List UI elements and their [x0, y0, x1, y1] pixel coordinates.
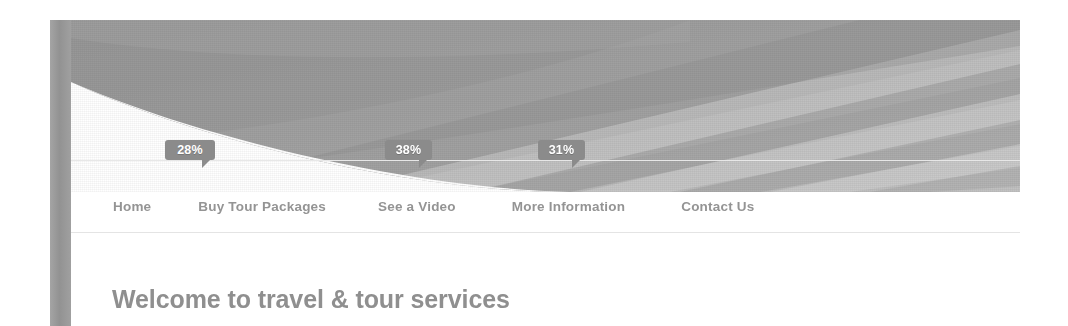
main-navigation: Home Buy Tour Packages See a Video More …: [113, 193, 754, 219]
nav-item-see-a-video[interactable]: See a Video: [378, 199, 456, 214]
nav-divider: [71, 232, 1020, 233]
nav-item-more-information[interactable]: More Information: [512, 199, 625, 214]
nav-item-home[interactable]: Home: [113, 199, 151, 214]
nav-item-contact-us[interactable]: Contact Us: [681, 199, 754, 214]
nav-item-buy-tour-packages[interactable]: Buy Tour Packages: [198, 199, 326, 214]
page-title: Welcome to travel & tour services: [112, 285, 510, 314]
stat-badge[interactable]: 31%: [538, 140, 585, 160]
badge-baseline-rule: [71, 160, 1020, 161]
travel-banner-graphic: [50, 20, 1020, 192]
page-root: 28% 38% 31% Home Buy Tour Packages See a…: [0, 0, 1068, 326]
left-accent-strip: [50, 20, 71, 326]
stat-badge[interactable]: 38%: [385, 140, 432, 160]
stat-badge[interactable]: 28%: [165, 140, 215, 160]
